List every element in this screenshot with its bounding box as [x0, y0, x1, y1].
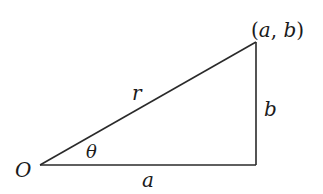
horizontal-side-label: a	[142, 168, 154, 192]
hypotenuse-line	[40, 42, 256, 165]
triangle-diagram: O a θ r b (a, b)	[0, 0, 323, 194]
angle-label: θ	[86, 141, 97, 162]
point-label: (a, b)	[251, 18, 304, 42]
vertical-side-label: b	[264, 97, 277, 121]
origin-label: O	[15, 158, 31, 182]
hypotenuse-label: r	[132, 81, 143, 105]
point-label-comma: ,	[271, 18, 284, 42]
point-label-b: b	[283, 18, 296, 42]
point-label-close: )	[296, 18, 304, 42]
point-label-a: a	[259, 18, 271, 42]
point-label-open: (	[251, 18, 259, 42]
